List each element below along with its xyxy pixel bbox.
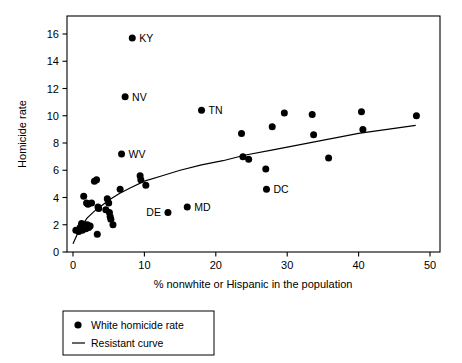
data-point [94,231,101,238]
data-point-nv [122,93,129,100]
data-point [137,176,144,183]
data-point-de [164,209,171,216]
x-axis-title: % nonwhite or Hispanic in the population [154,278,353,290]
data-point [142,182,149,189]
x-tick-label: 10 [138,259,150,271]
y-tick-label: 2 [53,219,59,231]
data-point [309,111,316,118]
data-point [238,130,245,137]
data-point-dc [263,186,270,193]
data-point [245,156,252,163]
point-label-nv: NV [132,91,147,103]
point-label-de: DE [146,206,161,218]
data-point [262,165,269,172]
data-point [80,193,87,200]
data-point-wv [118,150,125,157]
point-label-tn: TN [209,104,223,116]
data-point [310,131,317,138]
data-point [87,223,94,230]
y-tick-label: 4 [53,192,59,204]
data-point [117,186,124,193]
y-tick-label: 0 [53,246,59,258]
chart-figure: 0246810121416 01020304050 KYNVTNWVDCMDDE… [0,0,462,363]
data-point [269,123,276,130]
scatter-plot: 0246810121416 01020304050 KYNVTNWVDCMDDE… [0,0,462,363]
point-label-md: MD [194,201,211,213]
legend-dot-marker-icon [74,321,81,328]
data-point [281,110,288,117]
data-point-tn [198,107,205,114]
y-tick-label: 10 [47,110,59,122]
figure-background [0,0,462,363]
legend-label-resistant-curve: Resistant curve [91,337,164,349]
data-point [88,199,95,206]
x-tick-label: 0 [70,259,76,271]
y-axis-title: Homicide rate [16,100,28,168]
point-label-ky: KY [139,32,153,44]
point-label-dc: DC [273,183,289,195]
data-point-md [184,204,191,211]
data-point-ky [129,35,136,42]
data-point [358,108,365,115]
data-point [95,205,102,212]
y-tick-label: 14 [47,55,59,67]
y-tick-label: 12 [47,83,59,95]
y-tick-label: 8 [53,137,59,149]
data-point [105,199,112,206]
y-tick-label: 6 [53,164,59,176]
x-tick-label: 40 [352,259,364,271]
data-point [359,126,366,133]
legend-label-white-homicide-rate: White homicide rate [91,319,184,331]
data-point [413,112,420,119]
point-label-wv: WV [129,148,146,160]
data-point [93,176,100,183]
data-point [325,154,332,161]
x-tick-label: 30 [281,259,293,271]
x-tick-label: 50 [424,259,436,271]
x-tick-label: 20 [210,259,222,271]
y-tick-label: 16 [47,28,59,40]
data-point [109,221,116,228]
